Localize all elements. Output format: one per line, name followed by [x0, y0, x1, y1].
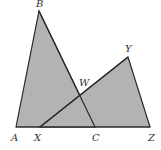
label-c: C	[92, 132, 100, 143]
label-w: W	[79, 77, 90, 88]
label-x: X	[33, 132, 42, 143]
label-b: B	[35, 0, 43, 9]
label-y: Y	[125, 43, 133, 54]
label-z: Z	[147, 132, 156, 143]
label-a: A	[10, 132, 18, 143]
geometry-diagram: B A X C Z Y W	[0, 0, 161, 150]
